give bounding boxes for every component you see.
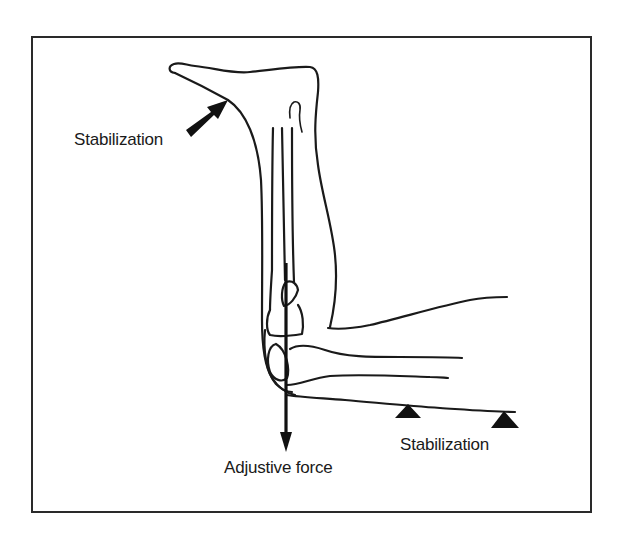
- stabilization-support-triangle-2: [491, 411, 519, 428]
- fibula-line: [292, 128, 294, 282]
- tibia-line-2: [282, 128, 285, 280]
- stabilization-label-bottom: Stabilization: [400, 436, 489, 453]
- thigh-top-outline: [328, 297, 507, 329]
- sole-and-shin-outline: [175, 73, 295, 395]
- thigh-bottom-outline: [286, 395, 515, 412]
- stabilization-label-top: Stabilization: [74, 131, 163, 148]
- knee-adjustment-diagram: Stabilization Stabilization Adjustive fo…: [0, 0, 624, 537]
- leg-drawing: [0, 0, 624, 537]
- femur-lower-line: [287, 375, 448, 385]
- tibia-line-1: [270, 128, 273, 310]
- femur-upper-line: [290, 346, 462, 358]
- adjustive-force-label: Adjustive force: [224, 459, 333, 476]
- tibial-tubercle: [282, 281, 298, 306]
- stabilization-arrow: [186, 100, 228, 137]
- foot-and-calf-outline: [170, 63, 336, 327]
